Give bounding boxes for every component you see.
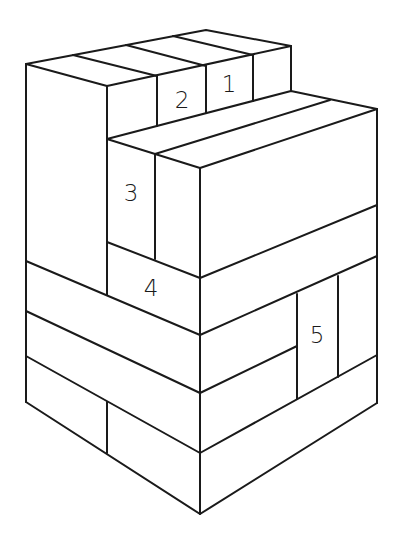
stacked-blocks-diagram: 1 2 3 4 5 [0,0,399,541]
block-label-5: 5 [310,322,325,348]
block-label-3: 3 [124,180,139,206]
block-label-4: 4 [144,275,159,301]
block-label-2: 2 [175,87,190,113]
block-label-1: 1 [222,71,237,97]
